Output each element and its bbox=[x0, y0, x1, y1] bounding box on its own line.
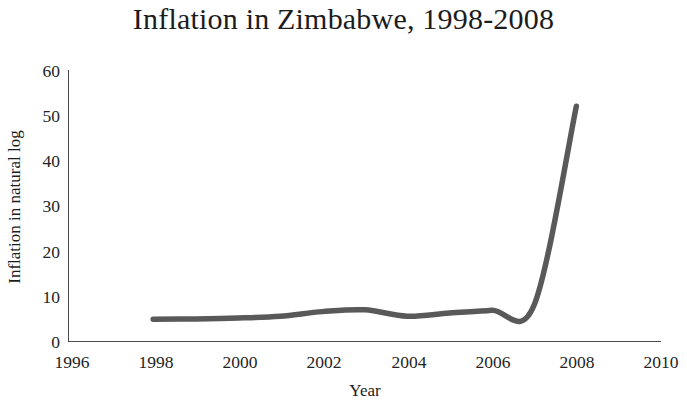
x-axis-title: Year bbox=[349, 381, 381, 400]
chart-figure: Inflation in Zimbabwe, 1998-2008 Inflati… bbox=[0, 0, 687, 406]
data-series-line bbox=[153, 106, 576, 321]
y-axis-title: Inflation in natural log bbox=[5, 130, 24, 284]
x-tick-label-1996: 1996 bbox=[55, 352, 90, 372]
y-tick-label-50: 50 bbox=[43, 106, 61, 126]
y-tick-label-60: 60 bbox=[43, 61, 61, 81]
x-tick-label-2008: 2008 bbox=[560, 352, 595, 372]
x-tick-label-2002: 2002 bbox=[307, 352, 342, 372]
y-tick-label-30: 30 bbox=[43, 196, 61, 216]
axis-lines bbox=[69, 70, 662, 342]
x-tick-label-2004: 2004 bbox=[392, 352, 427, 372]
chart-plot-area: Inflation in natural log 60 50 40 30 20 … bbox=[0, 0, 687, 406]
y-tick-label-10: 10 bbox=[43, 287, 61, 307]
x-tick-label-2000: 2000 bbox=[223, 352, 258, 372]
y-tick-label-0: 0 bbox=[51, 332, 60, 352]
x-tick-label-2006: 2006 bbox=[476, 352, 511, 372]
x-tick-label-2010: 2010 bbox=[644, 352, 679, 372]
y-tick-label-40: 40 bbox=[43, 151, 61, 171]
y-tick-label-20: 20 bbox=[43, 242, 61, 262]
x-tick-label-1998: 1998 bbox=[139, 352, 174, 372]
